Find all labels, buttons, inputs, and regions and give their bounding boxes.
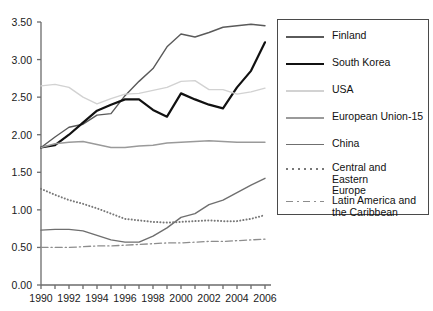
- axes: [37, 22, 271, 289]
- y-tick-label: 0.50: [2, 242, 32, 253]
- series-line: [41, 189, 265, 223]
- legend-swatch-icon: [286, 57, 324, 71]
- legend-swatch-icon: [286, 195, 324, 209]
- legend-item[interactable]: Finland: [278, 29, 370, 44]
- legend-swatch-icon: [286, 30, 324, 44]
- legend-swatch-icon: [286, 111, 324, 125]
- chart-figure: 0.000.501.001.502.002.503.003.50 1990199…: [0, 0, 433, 311]
- legend-label: China: [332, 137, 359, 150]
- legend-item[interactable]: Latin America and the Caribbean: [278, 194, 420, 218]
- y-tick-label: 0.00: [2, 280, 32, 291]
- series-lines: [41, 24, 265, 247]
- legend-item[interactable]: China: [278, 137, 363, 152]
- legend-swatch-icon: [286, 162, 324, 176]
- legend-swatch-icon: [286, 138, 324, 152]
- x-tick-label: 2006: [248, 293, 282, 304]
- legend-label: Central and Eastern Europe: [332, 161, 424, 197]
- y-tick-label: 2.50: [2, 92, 32, 103]
- legend-swatch-icon: [286, 84, 324, 98]
- series-line: [41, 141, 265, 148]
- legend-item[interactable]: European Union-15: [278, 110, 427, 125]
- series-line: [41, 239, 265, 247]
- legend-item[interactable]: South Korea: [278, 56, 394, 71]
- y-tick-label: 1.00: [2, 205, 32, 216]
- y-tick-label: 3.50: [2, 17, 32, 28]
- y-tick-label: 3.00: [2, 55, 32, 66]
- legend-item[interactable]: Central and Eastern Europe: [278, 161, 428, 197]
- legend-label: European Union-15: [332, 110, 423, 123]
- y-tick-label: 1.50: [2, 167, 32, 178]
- legend-item[interactable]: USA: [278, 83, 358, 98]
- legend-label: Finland: [332, 29, 366, 42]
- legend-label: USA: [332, 83, 354, 96]
- series-line: [41, 81, 265, 104]
- chart-svg: [0, 0, 290, 311]
- legend-label: Latin America and the Caribbean: [332, 194, 416, 218]
- chart-legend: FinlandSouth KoreaUSAEuropean Union-15Ch…: [277, 19, 429, 215]
- y-tick-label: 2.00: [2, 130, 32, 141]
- legend-label: South Korea: [332, 56, 390, 69]
- series-line: [41, 42, 265, 147]
- series-line: [41, 178, 265, 242]
- plot-area: 0.000.501.001.502.002.503.003.50 1990199…: [0, 0, 290, 311]
